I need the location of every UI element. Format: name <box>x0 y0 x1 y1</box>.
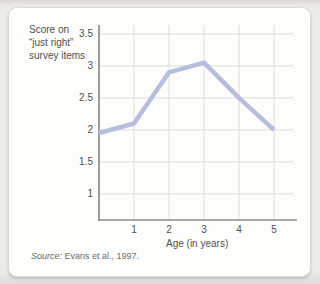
x-tick-label: 3 <box>201 224 207 235</box>
y-tick-label: 3.5 <box>79 28 93 39</box>
y-tick-label: 1.5 <box>79 156 93 167</box>
x-tick-label: 4 <box>236 224 242 235</box>
y-tick-label: 2.5 <box>79 92 93 103</box>
y-tick-label: 3 <box>87 60 93 71</box>
y-tick-label: 1 <box>87 188 93 199</box>
x-axis-title: Age (in years) <box>166 238 228 249</box>
y-axis-title-line-3: survey items <box>29 49 85 62</box>
source-caption: Source: Evans et al., 1997. <box>31 251 139 261</box>
y-axis-title: Score on “just right” survey items <box>29 23 85 62</box>
x-tick-label: 1 <box>131 224 137 235</box>
source-text: Evans et al., 1997. <box>62 251 139 261</box>
x-tick-label: 2 <box>166 224 172 235</box>
x-tick-label: 5 <box>271 224 277 235</box>
y-axis-title-line-1: Score on <box>29 23 85 36</box>
y-axis-title-line-2: “just right” <box>29 36 85 49</box>
source-label: Source: <box>31 251 62 261</box>
page-background: Score on “just right” survey items 3.532… <box>0 0 320 284</box>
figure-card: Score on “just right” survey items 3.532… <box>8 7 311 277</box>
y-tick-label: 2 <box>87 124 93 135</box>
